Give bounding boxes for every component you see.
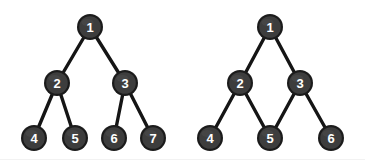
baseline-rule: [0, 159, 365, 160]
graph-node-5[interactable]: 5: [62, 125, 88, 151]
graph-node-3[interactable]: 3: [287, 70, 313, 96]
node-layer: 123456: [197, 14, 344, 151]
node-layer: 1234567: [21, 14, 166, 151]
node-label: 1: [266, 20, 273, 35]
graph-node-6[interactable]: 6: [318, 125, 344, 151]
graph-node-3[interactable]: 3: [112, 70, 138, 96]
node-label: 2: [236, 76, 243, 91]
node-label: 2: [53, 76, 60, 91]
binary-tree: 1234567: [21, 14, 166, 151]
graph-node-7[interactable]: 7: [140, 125, 166, 151]
graph-node-5[interactable]: 5: [257, 125, 283, 151]
node-label: 4: [206, 131, 214, 146]
node-label: 3: [296, 76, 303, 91]
node-label: 3: [121, 76, 128, 91]
graph-diagram: 1234567123456: [0, 0, 365, 163]
graph-node-4[interactable]: 4: [21, 125, 47, 151]
directed-acyclic-graph: 123456: [197, 14, 344, 151]
graph-node-2[interactable]: 2: [227, 70, 253, 96]
graph-node-6[interactable]: 6: [101, 125, 127, 151]
node-label: 7: [149, 131, 156, 146]
node-label: 6: [110, 131, 117, 146]
graph-node-1[interactable]: 1: [77, 14, 103, 40]
node-label: 6: [327, 131, 334, 146]
graph-node-4[interactable]: 4: [197, 125, 223, 151]
node-label: 1: [86, 20, 93, 35]
node-label: 4: [30, 131, 38, 146]
node-label: 5: [71, 131, 78, 146]
node-label: 5: [266, 131, 273, 146]
diagram-canvas: 1234567123456: [0, 0, 365, 163]
graph-node-2[interactable]: 2: [44, 70, 70, 96]
graph-node-1[interactable]: 1: [257, 14, 283, 40]
